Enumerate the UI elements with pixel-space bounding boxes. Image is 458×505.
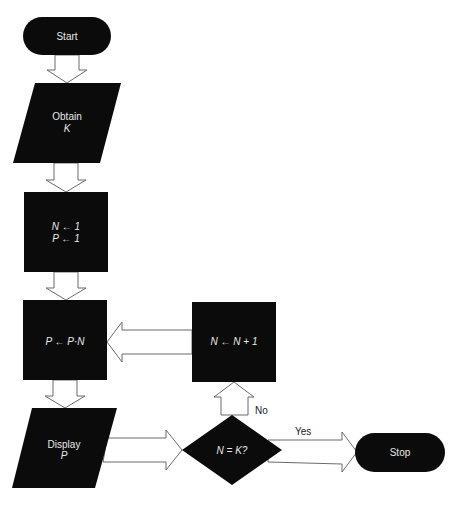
flowchart-canvas: Start Obtain K N ← 1 P ← 1 P ← P·N N ← N… xyxy=(0,0,458,505)
start-label: Start xyxy=(56,31,77,42)
multiply-label: P ← P·N xyxy=(45,336,85,347)
increment-process-box: N ← N + 1 xyxy=(192,302,276,382)
input-parallelogram: Obtain K xyxy=(13,83,121,163)
stop-terminal: Stop xyxy=(355,433,445,472)
init-n-label: N ← 1 xyxy=(52,221,80,232)
arrow-increment-to-multiply xyxy=(107,322,192,362)
increment-label: N ← N + 1 xyxy=(211,336,258,347)
edge-label-yes: Yes xyxy=(295,426,311,437)
output-variable: P xyxy=(61,450,68,461)
init-p-label: P ← 1 xyxy=(52,233,79,244)
output-label: Display xyxy=(48,439,81,450)
arrow-decision-to-increment xyxy=(214,382,254,415)
arrow-decision-to-stop xyxy=(268,432,357,472)
init-process-box: N ← 1 P ← 1 xyxy=(24,192,108,272)
arrow-start-to-input xyxy=(47,55,87,83)
input-label: Obtain xyxy=(52,111,81,122)
multiply-process-box: P ← P·N xyxy=(23,300,107,380)
stop-label: Stop xyxy=(390,447,411,458)
arrow-input-to-init xyxy=(46,163,86,192)
arrow-output-to-decision xyxy=(103,430,182,470)
start-terminal: Start xyxy=(23,17,111,55)
arrow-init-to-multiply xyxy=(46,272,86,300)
arrow-multiply-to-output xyxy=(45,380,85,408)
edge-label-no: No xyxy=(255,405,268,416)
decision-diamond: N = K? xyxy=(182,415,282,485)
decision-label: N = K? xyxy=(217,445,248,456)
output-parallelogram: Display P xyxy=(12,408,117,488)
